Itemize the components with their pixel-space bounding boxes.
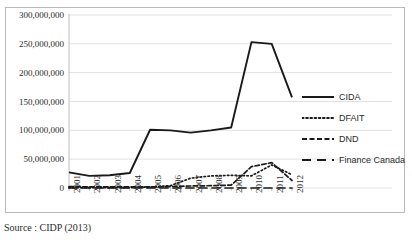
x-axis-tick-label: 2010 [255, 175, 264, 193]
y-axis-tick-label: 100,000,000 [2, 126, 64, 135]
y-axis-tick-label: 150,000,000 [2, 98, 64, 107]
legend-item-dfait: DFAIT [302, 107, 412, 128]
legend-label-dnd: DND [339, 134, 359, 144]
y-axis-tick-label: 200,000,000 [2, 69, 64, 78]
source-caption: Source : CIDP (2013) [4, 222, 91, 233]
x-axis-tick-label: 2005 [154, 175, 163, 193]
legend-label-finance-canada: Finance Canada [339, 155, 405, 165]
chart-plot-frame: 300,000,000250,000,000200,000,000150,000… [5, 7, 405, 213]
legend-label-dfait: DFAIT [339, 113, 365, 123]
y-axis-tick-label: 50,000,000 [2, 155, 64, 164]
x-axis-tick-label: 2008 [215, 175, 224, 193]
x-axis-tick-label: 2001 [73, 175, 82, 193]
legend-item-finance-canada: Finance Canada [302, 149, 412, 170]
x-axis-tick-label: 2004 [134, 175, 143, 193]
legend-swatch-dashed-icon [302, 134, 334, 144]
figure-title-cropped [0, 0, 412, 7]
x-axis-tick-label: 2006 [174, 175, 183, 193]
x-axis-tick-label: 2011 [276, 175, 285, 193]
x-axis-tick-label: 2012 [296, 175, 305, 193]
legend-label-cida: CIDA [339, 92, 361, 102]
legend-swatch-long-dash-icon [302, 155, 334, 165]
x-axis-tick-label: 2003 [114, 175, 123, 193]
legend-swatch-solid-icon [302, 92, 334, 102]
figure-container: 300,000,000250,000,000200,000,000150,000… [0, 0, 412, 240]
chart-legend: CIDA DFAIT DND Finance Canada [302, 86, 412, 170]
y-axis-tick-label: 300,000,000 [2, 11, 64, 20]
series-line-cida [69, 42, 292, 176]
x-axis-tick-label: 2009 [235, 175, 244, 193]
x-axis-tick-label: 2002 [93, 175, 102, 193]
x-axis-tick-label: 2007 [195, 175, 204, 193]
legend-item-dnd: DND [302, 128, 412, 149]
legend-swatch-dotted-icon [302, 113, 334, 123]
y-axis-tick-label: 250,000,000 [2, 40, 64, 49]
legend-item-cida: CIDA [302, 86, 412, 107]
y-axis-tick-label: 0 [2, 184, 64, 193]
